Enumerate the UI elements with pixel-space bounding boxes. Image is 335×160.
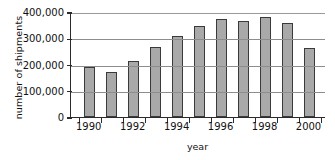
- x-tick-label: 1994: [154, 121, 200, 132]
- bar: [128, 61, 139, 117]
- x-tick-label: 1992: [110, 121, 156, 132]
- bar: [172, 36, 183, 117]
- gridline: [71, 13, 325, 14]
- bar: [238, 21, 249, 117]
- bar: [282, 23, 293, 118]
- x-tick-label: 1996: [198, 121, 244, 132]
- x-tick-label: 1998: [242, 121, 288, 132]
- x-tick-label: 2000: [286, 121, 332, 132]
- bar: [216, 19, 227, 117]
- y-tick-label: 400,000: [2, 8, 64, 18]
- gridline: [71, 92, 325, 93]
- bar: [106, 72, 117, 117]
- y-tick-mark: [67, 12, 72, 13]
- y-tick-label: 300,000: [2, 34, 64, 44]
- gridline: [71, 39, 325, 40]
- y-tick-mark: [67, 91, 72, 92]
- plot-area: [70, 13, 325, 118]
- y-tick-label: 100,000: [2, 87, 64, 97]
- x-tick-label: 1990: [66, 121, 112, 132]
- x-axis-title: year: [70, 141, 325, 152]
- bar: [150, 47, 161, 117]
- bar-chart: number of shipments 0100,000200,000300,0…: [0, 0, 335, 160]
- y-tick-label: 0: [2, 113, 64, 123]
- y-tick-mark: [67, 39, 72, 40]
- y-tick-mark: [67, 117, 72, 118]
- y-tick-mark: [67, 65, 72, 66]
- bar: [260, 17, 271, 117]
- gridline: [71, 66, 325, 67]
- y-tick-label: 200,000: [2, 61, 64, 71]
- bar: [304, 48, 315, 117]
